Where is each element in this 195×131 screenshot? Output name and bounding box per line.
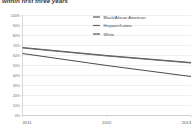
y-axis-tick-label: 30% xyxy=(13,84,21,88)
y-axis-tick-labels: 100%90%80%70%60%50%40%30%20%10%0% xyxy=(11,14,23,118)
line-chart-plot: 100%90%80%70%60%50%40%30%20%10%0% 201120… xyxy=(0,0,195,131)
x-axis-tick-label: 2013 xyxy=(182,120,192,125)
x-axis-tick-label: 2012 xyxy=(102,120,112,125)
y-axis-tick-label: 80% xyxy=(13,34,21,38)
y-axis-tick-label: 20% xyxy=(13,94,21,98)
y-axis-tick-label: 100% xyxy=(11,14,21,18)
series-line-0 xyxy=(23,48,192,63)
legend-label-2: White xyxy=(104,32,115,37)
y-axis-tick-label: 50% xyxy=(13,64,21,68)
legend-label-0: Black/African American xyxy=(104,15,147,20)
chart-figure: within first three years 100%90%80%70%60… xyxy=(0,0,195,131)
x-axis-tick-label: 2011 xyxy=(23,120,33,125)
series-line-2 xyxy=(23,54,192,77)
y-axis-tick-label: 90% xyxy=(13,24,21,28)
y-axis-tick-label: 60% xyxy=(13,54,21,58)
y-axis-tick-label: 40% xyxy=(13,74,21,78)
series-lines-group xyxy=(23,48,192,77)
x-axis-tick-labels: 201120122013 xyxy=(23,120,192,125)
y-axis-tick-label: 70% xyxy=(13,44,21,48)
y-axis-tick-label: 10% xyxy=(13,104,21,108)
x-axis-tick-marks xyxy=(23,116,192,118)
legend-label-1: Hispanic/Latino xyxy=(104,23,133,28)
y-axis-tick-label: 0% xyxy=(15,114,21,118)
